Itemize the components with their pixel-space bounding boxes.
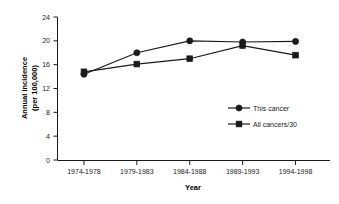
data-point-square: [240, 43, 246, 49]
y-tick-label: 4: [46, 133, 50, 140]
x-tick-label: 1994-1998: [279, 168, 313, 175]
y-tick-label: 16: [42, 61, 50, 68]
x-tick-label: 1989-1993: [226, 168, 260, 175]
line-chart: 04812162024 1974-19781979-19831984-19881…: [0, 0, 339, 204]
legend-label: All cancers/30: [253, 121, 297, 128]
data-point-circle: [292, 38, 298, 44]
data-point-square: [187, 56, 193, 62]
y-tick-label: 12: [42, 85, 50, 92]
data-point-circle: [187, 38, 193, 44]
data-point-circle: [134, 50, 140, 56]
legend-square-marker: [236, 121, 242, 127]
chart-figure: 04812162024 1974-19781979-19831984-19881…: [0, 0, 339, 204]
data-point-square: [134, 61, 140, 67]
y-tick-label: 20: [42, 37, 50, 44]
x-tick-label: 1984-1988: [173, 168, 207, 175]
x-axis-title: Year: [185, 183, 201, 192]
y-tick-label: 0: [46, 157, 50, 164]
data-point-square: [293, 52, 299, 58]
y-axis-title-line2: (per 100,000): [30, 65, 39, 111]
y-axis-title-line1: Annual incidence: [20, 57, 29, 119]
data-point-square: [81, 69, 87, 75]
x-tick-label: 1974-1978: [67, 168, 101, 175]
x-tick-label: 1979-1983: [120, 168, 154, 175]
y-tick-label: 24: [42, 14, 50, 21]
legend-label: This cancer: [253, 105, 290, 112]
legend-circle-marker: [236, 105, 242, 111]
y-tick-label: 8: [46, 109, 50, 116]
